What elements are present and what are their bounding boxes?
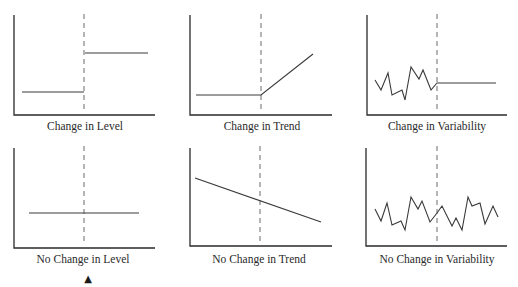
axes: [190, 148, 332, 246]
panel-label-change-in-variability: Change in Variability: [388, 120, 486, 132]
panel-change-in-trend: [190, 14, 332, 115]
axes: [14, 148, 155, 248]
trend-line: [195, 178, 321, 222]
panel-label-change-in-level: Change in Level: [47, 120, 123, 132]
diagram-canvas: [0, 0, 518, 287]
panel-change-in-level: [14, 14, 155, 115]
variable-series: [375, 67, 496, 100]
panel-no-change-in-variability: [366, 146, 507, 246]
panel-no-change-in-level: [14, 146, 155, 248]
panel-label-no-change-in-variability: No Change in Variability: [379, 253, 494, 265]
panel-label-change-in-trend: Change in Trend: [224, 120, 301, 132]
panel-label-no-change-in-level: No Change in Level: [37, 253, 130, 265]
panel-no-change-in-trend: [190, 146, 332, 246]
triangle-up-icon: ▲: [84, 273, 92, 284]
panel-change-in-variability: [367, 14, 507, 115]
panel-label-no-change-in-trend: No Change in Trend: [212, 253, 306, 265]
trend-line: [196, 54, 313, 95]
